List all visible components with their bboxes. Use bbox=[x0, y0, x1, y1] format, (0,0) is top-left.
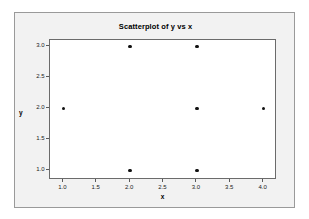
graph-window: Scatterplot of y vs x y 1.01.52.02.53.0 … bbox=[14, 12, 295, 208]
y-axis-title: y bbox=[19, 109, 23, 116]
data-point bbox=[262, 107, 265, 110]
y-axis-tick-label: 1.0 bbox=[36, 165, 44, 174]
tick-mark bbox=[129, 179, 130, 182]
x-axis-title: x bbox=[49, 193, 276, 200]
tick-mark bbox=[195, 179, 196, 182]
data-point bbox=[62, 107, 65, 110]
tick-mark bbox=[95, 179, 96, 182]
data-point bbox=[195, 107, 198, 110]
data-point bbox=[128, 169, 131, 172]
x-axis-tick-label: 3.5 bbox=[220, 183, 238, 192]
tick-mark bbox=[262, 179, 263, 182]
x-axis-tick-label: 4.0 bbox=[254, 183, 272, 192]
x-axis-tick-label: 1.0 bbox=[53, 183, 71, 192]
y-axis-tick-label: 2.0 bbox=[36, 103, 44, 112]
y-axis-tick-label: 2.5 bbox=[36, 72, 44, 81]
tick-mark bbox=[229, 179, 230, 182]
x-axis-tick-label: 1.5 bbox=[87, 183, 105, 192]
data-point bbox=[195, 169, 198, 172]
y-axis-tick-label: 3.0 bbox=[36, 41, 44, 50]
tick-mark bbox=[162, 179, 163, 182]
tick-mark bbox=[62, 179, 63, 182]
plot-area bbox=[49, 39, 276, 179]
graph-page: Scatterplot of y vs x y 1.01.52.02.53.0 … bbox=[0, 0, 309, 219]
x-axis-tick-label: 2.5 bbox=[154, 183, 172, 192]
x-axis-tick-label: 2.0 bbox=[120, 183, 138, 192]
x-axis-tick-label: 3.0 bbox=[187, 183, 205, 192]
data-point bbox=[195, 45, 198, 48]
y-axis-tick-label: 1.5 bbox=[36, 134, 44, 143]
page-title: Scatterplot of y vs x bbox=[15, 22, 296, 31]
data-point bbox=[128, 45, 131, 48]
